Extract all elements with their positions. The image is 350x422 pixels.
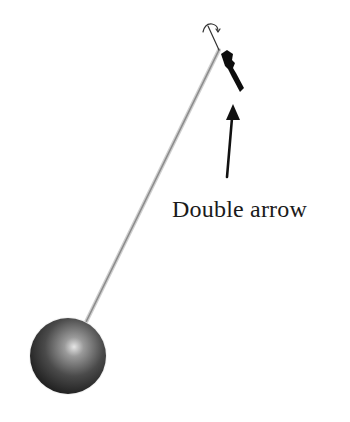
annotation-arrow-icon (226, 104, 240, 177)
pendulum-rod (86, 50, 219, 322)
annotation-label: Double arrow (172, 196, 307, 223)
pivot-rotation-icon (203, 24, 220, 50)
pendulum-bob-sphere (29, 317, 107, 395)
double-arrow-icon[interactable] (221, 50, 244, 92)
